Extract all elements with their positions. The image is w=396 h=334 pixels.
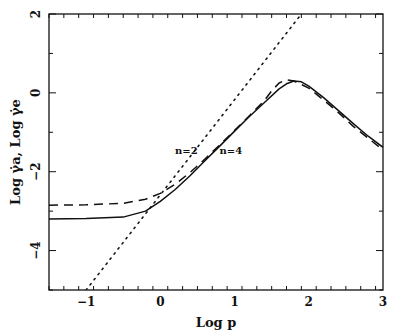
series-group [49,14,383,290]
ticks [49,14,383,290]
plot-frame [49,14,383,290]
series-line-n-2 [49,80,383,205]
y-tick-label: −4 [29,241,43,259]
x-axis-title: Log p [196,315,237,330]
y-tick-label: 2 [29,10,43,18]
tick-labels: −10123−4−202 [29,10,387,309]
x-tick-label: −1 [77,295,95,309]
annotation-label: n=2 [175,145,198,156]
series-line-n-4 [49,81,383,219]
x-tick-label: 3 [379,295,387,309]
chart: −10123−4−202 n=2n=4 Log p Log γ̇a, Log γ… [0,0,396,334]
y-tick-label: 0 [29,89,43,97]
annotation-label: n=4 [220,145,243,156]
x-tick-label: 2 [305,295,313,309]
annotations: n=2n=4 [175,145,242,156]
y-axis-title: Log γ̇a, Log γ̇e [8,99,23,205]
x-tick-label: 1 [230,295,238,309]
x-tick-label: 0 [156,295,164,309]
y-tick-label: −2 [29,163,43,181]
